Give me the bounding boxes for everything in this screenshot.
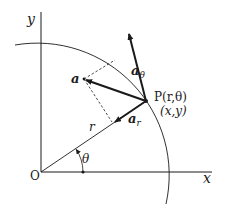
theta-dot — [81, 170, 84, 173]
point-cartesian-label: (x,y) — [160, 104, 187, 118]
vector-a-label: a — [71, 71, 79, 86]
vector-a-r-base: a — [128, 111, 136, 126]
vector-a-r-label: ar — [128, 111, 141, 128]
point-a — [83, 78, 86, 81]
radius-label: r — [89, 120, 96, 134]
vector-a-theta-sub: θ — [139, 70, 145, 80]
vector-a-r-sub: r — [136, 118, 141, 128]
dashed-projection-r — [84, 79, 112, 122]
origin-label: O — [30, 169, 40, 183]
angle-label: θ — [82, 152, 90, 166]
vector-a — [86, 80, 146, 101]
vector-a-theta-label: aθ — [131, 63, 145, 80]
y-axis-label: y — [26, 11, 36, 27]
polar-acceleration-diagram: y x O r θ a aθ ar P(r,θ) (x,y) — [0, 0, 226, 211]
dashed-projection-theta — [84, 60, 115, 79]
vector-a-theta-base: a — [131, 63, 139, 78]
point-p-label: P(r,θ) — [154, 90, 187, 104]
point-p — [144, 99, 148, 103]
x-axis-label: x — [203, 170, 211, 186]
